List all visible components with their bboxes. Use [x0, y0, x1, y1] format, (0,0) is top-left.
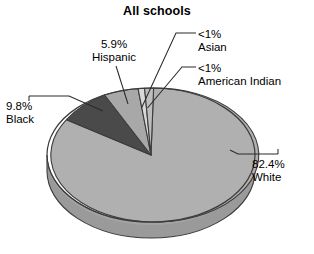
pie-top-face: [47, 88, 259, 222]
callout-name-hispanic: Hispanic: [78, 51, 150, 64]
callout-value-black: 9.8%: [6, 100, 34, 113]
callout-name-black: Black: [6, 113, 34, 126]
callout-label-asian: <1% Asian: [198, 28, 227, 54]
pie-chart-graphic: [0, 0, 314, 254]
callout-value-asian: <1%: [198, 28, 227, 41]
callout-name-white: White: [252, 171, 285, 184]
callout-name-american-indian: American Indian: [198, 75, 281, 88]
callout-label-american-indian: <1% American Indian: [198, 62, 281, 88]
pie-chart-figure: All schools: [0, 0, 314, 254]
callout-label-black: 9.8% Black: [6, 100, 34, 126]
callout-name-asian: Asian: [198, 41, 227, 54]
callout-label-hispanic: 5.9% Hispanic: [78, 38, 150, 64]
callout-label-white: 82.4% White: [252, 158, 285, 184]
callout-value-white: 82.4%: [252, 158, 285, 171]
callout-value-american-indian: <1%: [198, 62, 281, 75]
callout-value-hispanic: 5.9%: [78, 38, 150, 51]
